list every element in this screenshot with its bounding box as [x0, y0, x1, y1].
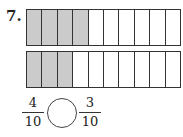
unshaded-cell — [119, 10, 134, 45]
unshaded-cell — [150, 52, 165, 87]
fraction-left: 4 10 — [22, 96, 44, 129]
unshaded-cell — [166, 10, 180, 45]
unshaded-cell — [104, 10, 119, 45]
unshaded-cell — [73, 52, 88, 87]
comparison-answer-circle[interactable] — [47, 98, 77, 128]
fraction-right: 3 10 — [79, 96, 101, 129]
unshaded-cell — [104, 52, 119, 87]
shaded-cell — [58, 52, 73, 87]
unshaded-cell — [89, 52, 104, 87]
fraction-left-bar — [22, 112, 44, 113]
fraction-bar-top — [26, 9, 181, 46]
unshaded-cell — [135, 52, 150, 87]
unshaded-cell — [119, 52, 134, 87]
shaded-cell — [58, 10, 73, 45]
unshaded-cell — [150, 10, 165, 45]
unshaded-cell — [135, 10, 150, 45]
unshaded-cell — [166, 52, 180, 87]
fraction-left-numerator: 4 — [22, 96, 44, 111]
fraction-right-numerator: 3 — [79, 96, 101, 111]
shaded-cell — [73, 10, 88, 45]
problem-number: 7. — [6, 8, 22, 24]
fraction-bar-bottom — [26, 51, 181, 88]
shaded-cell — [27, 10, 42, 45]
fraction-right-denominator: 10 — [79, 114, 101, 129]
shaded-cell — [42, 10, 57, 45]
shaded-cell — [42, 52, 57, 87]
shaded-cell — [27, 52, 42, 87]
unshaded-cell — [89, 10, 104, 45]
fraction-right-bar — [79, 112, 101, 113]
fraction-left-denominator: 10 — [22, 114, 44, 129]
